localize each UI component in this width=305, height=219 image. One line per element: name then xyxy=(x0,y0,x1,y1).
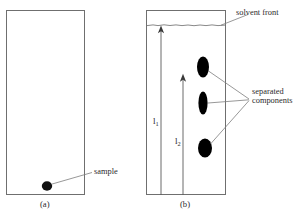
separated-components-line-1: separated xyxy=(252,87,292,96)
plate-outline-a xyxy=(7,11,85,195)
l1-measure-label: l1 xyxy=(153,116,159,126)
panel-a-group xyxy=(7,11,93,195)
component-leader-line-1 xyxy=(209,71,250,99)
panel-a-caption: (a) xyxy=(40,200,50,210)
l1-subscript: 1 xyxy=(156,120,159,127)
component-leader-line-3 xyxy=(211,101,250,144)
tlc-figure: solvent front separated components sampl… xyxy=(0,0,305,219)
solvent-front-label: solvent front xyxy=(236,8,279,17)
l2-measure-label: l2 xyxy=(175,136,181,146)
panel-b-caption: (b) xyxy=(180,200,190,210)
component-spot-2 xyxy=(198,91,207,114)
component-spot-1 xyxy=(197,56,209,77)
sample-leader-line xyxy=(52,173,93,185)
panel-b-group xyxy=(147,11,250,196)
figure-canvas xyxy=(0,0,305,219)
solvent-front-line xyxy=(147,25,225,26)
sample-spot xyxy=(42,181,52,190)
l2-subscript: 2 xyxy=(178,140,181,147)
component-spot-3 xyxy=(198,138,212,157)
separated-components-line-2: components xyxy=(252,96,292,105)
separated-components-label: separated components xyxy=(252,87,292,106)
component-leader-line-2 xyxy=(208,100,249,103)
sample-label: sample xyxy=(94,167,118,176)
